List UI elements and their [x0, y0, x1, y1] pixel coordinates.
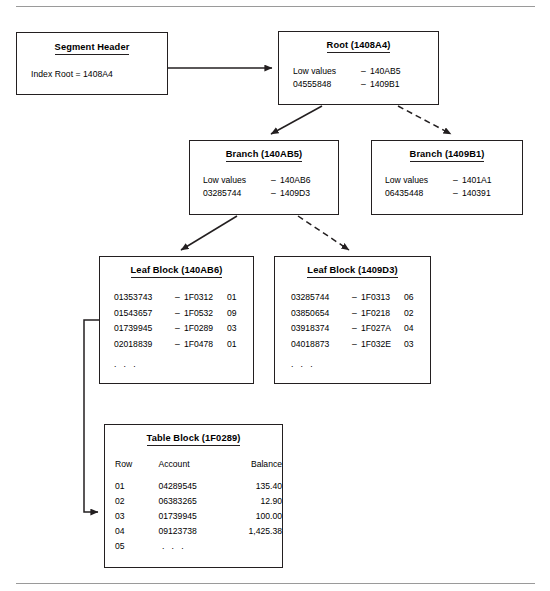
segment-header-title: Segment Header: [17, 42, 167, 55]
leaf-block-right-entries: 03285744 – 1F0313 06 03850654 – 1F0218 0…: [275, 290, 430, 369]
leaf-entry-slot: 03: [227, 321, 237, 337]
branch-entry-value: 1409D3: [280, 187, 310, 200]
cell-balance: 12.90: [231, 494, 282, 509]
leaf-entry-slot: 03: [404, 337, 414, 353]
leaf-entry-key: 01543657: [114, 306, 175, 322]
branch-right-title: Branch (1409B1): [372, 149, 522, 162]
branch-entry-dash: –: [453, 187, 462, 200]
branch-entry-value: 140391: [462, 187, 491, 200]
bottom-divider-rule: [16, 583, 535, 584]
connector-root-to-branch-left: [271, 106, 322, 134]
connector-leaf-left-to-table-block: [84, 320, 99, 512]
branch-entry-dash: –: [271, 174, 280, 187]
root-entries: Low values – 140AB5 04555848 – 1409B1: [279, 65, 438, 91]
leaf-entry-pointer: 1F032E: [361, 337, 404, 353]
leaf-entry-row: 03285744 – 1F0313 06: [291, 290, 430, 306]
cell-account: 01739945: [156, 509, 231, 524]
leaf-entry-row: 01353743 – 1F0312 01: [114, 290, 253, 306]
leaf-block-right-box: Leaf Block (1409D3) 03285744 – 1F0313 06…: [274, 256, 431, 384]
leaf-entry-dash: –: [352, 306, 361, 322]
cell-row: 04: [115, 524, 156, 539]
branch-entry-key: 06435448: [385, 187, 453, 200]
leaf-entry-row: 02018839 – 1F0478 01: [114, 337, 253, 353]
segment-header-box: Segment Header Index Root = 1408A4: [16, 32, 168, 95]
column-header-account: Account: [156, 457, 231, 472]
column-header-row: Row: [115, 457, 156, 472]
leaf-entry-pointer: 1F0313: [361, 290, 404, 306]
leaf-entry-dash: –: [175, 321, 184, 337]
cell-row: 03: [115, 509, 156, 524]
table-row-last: 05 . . .: [115, 539, 282, 554]
leaf-entry-row: 01739945 – 1F0289 03: [114, 321, 253, 337]
branch-left-title: Branch (140AB5): [190, 149, 338, 162]
leaf-entry-key: 01739945: [114, 321, 175, 337]
cell-balance: 100.00: [231, 509, 282, 524]
leaf-entry-dash: –: [352, 290, 361, 306]
leaf-entry-slot: 01: [227, 290, 237, 306]
leaf-entry-pointer: 1F0478: [184, 337, 227, 353]
leaf-entry-dash: –: [175, 290, 184, 306]
cell-row: 01: [115, 479, 156, 494]
leaf-entry-key: 04018873: [291, 337, 352, 353]
table-row: 04 09123738 1,425.38: [115, 524, 282, 539]
root-entry-row: 04555848 – 1409B1: [293, 78, 438, 91]
leaf-entry-pointer: 1F0532: [184, 306, 227, 322]
branch-entry-key: 03285744: [203, 187, 271, 200]
leaf-entry-dash: –: [352, 321, 361, 337]
leaf-entry-key: 01353743: [114, 290, 175, 306]
leaf-entry-key: 03918374: [291, 321, 352, 337]
branch-left-box: Branch (140AB5) Low values – 140AB6 0328…: [189, 140, 339, 215]
leaf-entry-pointer: 1F027A: [361, 321, 404, 337]
branch-entry-dash: –: [271, 187, 280, 200]
table-row: 02 06383265 12.90: [115, 494, 282, 509]
leaf-entry-dash: –: [175, 306, 184, 322]
branch-left-entries: Low values – 140AB6 03285744 – 1409D3: [190, 174, 338, 200]
root-entry-key: 04555848: [293, 78, 361, 91]
leaf-entry-row: 01543657 – 1F0532 09: [114, 306, 253, 322]
diagram-canvas: Segment Header Index Root = 1408A4 Root …: [0, 0, 550, 591]
leaf-entry-pointer: 1F0218: [361, 306, 404, 322]
cell-account-ellipsis: . . .: [156, 539, 235, 554]
cell-balance: 135.40: [231, 479, 282, 494]
branch-entry-row: Low values – 140AB6: [203, 174, 338, 187]
root-box: Root (1408A4) Low values – 140AB5 045558…: [278, 31, 439, 105]
connector-branch-left-to-leaf-right: [298, 216, 349, 250]
root-entry-row: Low values – 140AB5: [293, 65, 438, 78]
table-block-table: Row Account Balance 01 04289545 135.40 0…: [105, 457, 282, 554]
table-row: 01 04289545 135.40: [115, 479, 282, 494]
leaf-entry-dash: –: [352, 337, 361, 353]
connector-root-to-branch-right: [398, 106, 451, 134]
leaf-block-right-title: Leaf Block (1409D3): [275, 265, 430, 278]
connector-branch-left-to-leaf-left: [181, 216, 237, 250]
table-block-title: Table Block (1F0289): [105, 433, 282, 446]
leaf-entry-slot: 04: [404, 321, 414, 337]
column-header-balance: Balance: [231, 457, 282, 472]
leaf-entry-pointer: 1F0289: [184, 321, 227, 337]
segment-header-index-root: Index Root = 1408A4: [17, 69, 167, 79]
leaf-entry-row: 04018873 – 1F032E 03: [291, 337, 430, 353]
table-row: 03 01739945 100.00: [115, 509, 282, 524]
leaf-entry-pointer: 1F0312: [184, 290, 227, 306]
leaf-entry-slot: 09: [227, 306, 237, 322]
cell-account: 04289545: [156, 479, 231, 494]
branch-right-box: Branch (1409B1) Low values – 1401A1 0643…: [371, 140, 523, 215]
leaf-entry-slot: 02: [404, 306, 414, 322]
root-entry-dash: –: [361, 65, 370, 78]
leaf-block-left-box: Leaf Block (140AB6) 01353743 – 1F0312 01…: [99, 256, 254, 384]
leaf-entry-key: 02018839: [114, 337, 175, 353]
table-header-row: Row Account Balance: [115, 457, 282, 472]
cell-account: 06383265: [156, 494, 231, 509]
root-entry-key: Low values: [293, 65, 361, 78]
branch-entry-dash: –: [453, 174, 462, 187]
leaf-entry-row: 03918374 – 1F027A 04: [291, 321, 430, 337]
table-block-box: Table Block (1F0289) Row Account Balance…: [104, 424, 283, 568]
leaf-entry-key: 03285744: [291, 290, 352, 306]
root-entry-dash: –: [361, 78, 370, 91]
root-title: Root (1408A4): [279, 40, 438, 53]
leaf-entry-slot: 06: [404, 290, 414, 306]
branch-entry-row: 06435448 – 140391: [385, 187, 522, 200]
branch-entry-row: 03285744 – 1409D3: [203, 187, 338, 200]
root-entry-value: 1409B1: [370, 78, 400, 91]
leaf-block-right-ellipsis: . . .: [291, 359, 430, 369]
branch-entry-value: 1401A1: [462, 174, 492, 187]
